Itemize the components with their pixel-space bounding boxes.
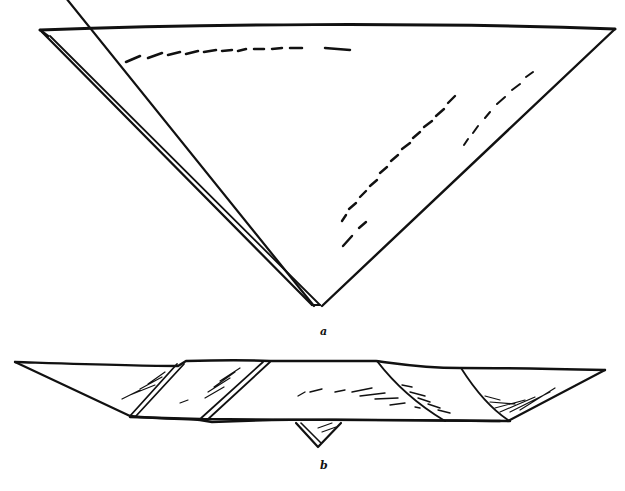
bandage-illustration: [0, 0, 625, 491]
figure-label-a: a: [320, 325, 327, 338]
figure-a-triangle: [40, 0, 615, 306]
figure-b-cravat: [15, 360, 605, 447]
figure-label-b: b: [320, 459, 328, 472]
